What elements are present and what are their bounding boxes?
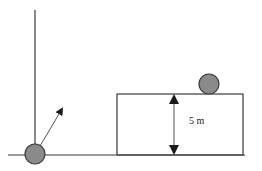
height-dimension-arrow bbox=[169, 94, 179, 155]
platform bbox=[117, 94, 243, 155]
arrowhead-down-icon bbox=[169, 145, 179, 155]
target-ball bbox=[199, 74, 219, 94]
height-label: 5 m bbox=[189, 115, 205, 126]
physics-diagram: 5 m bbox=[0, 0, 262, 171]
velocity-arrow bbox=[40, 109, 62, 146]
arrowhead-up-icon bbox=[169, 94, 179, 104]
launch-ball bbox=[25, 144, 45, 164]
